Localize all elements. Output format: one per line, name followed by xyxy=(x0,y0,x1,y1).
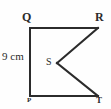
edge-RS xyxy=(57,28,98,63)
vertex-label-s: S xyxy=(46,57,52,67)
vertex-label-p: P xyxy=(27,97,31,104)
vertex-label-q: Q xyxy=(22,11,31,23)
vertex-label-r: R xyxy=(95,11,104,23)
vertex-label-t: T xyxy=(96,96,102,105)
edge-ST xyxy=(57,63,98,96)
geometry-figure: Q R S P T 9 cm xyxy=(0,0,111,109)
side-length-label-qp: 9 cm xyxy=(2,51,24,62)
